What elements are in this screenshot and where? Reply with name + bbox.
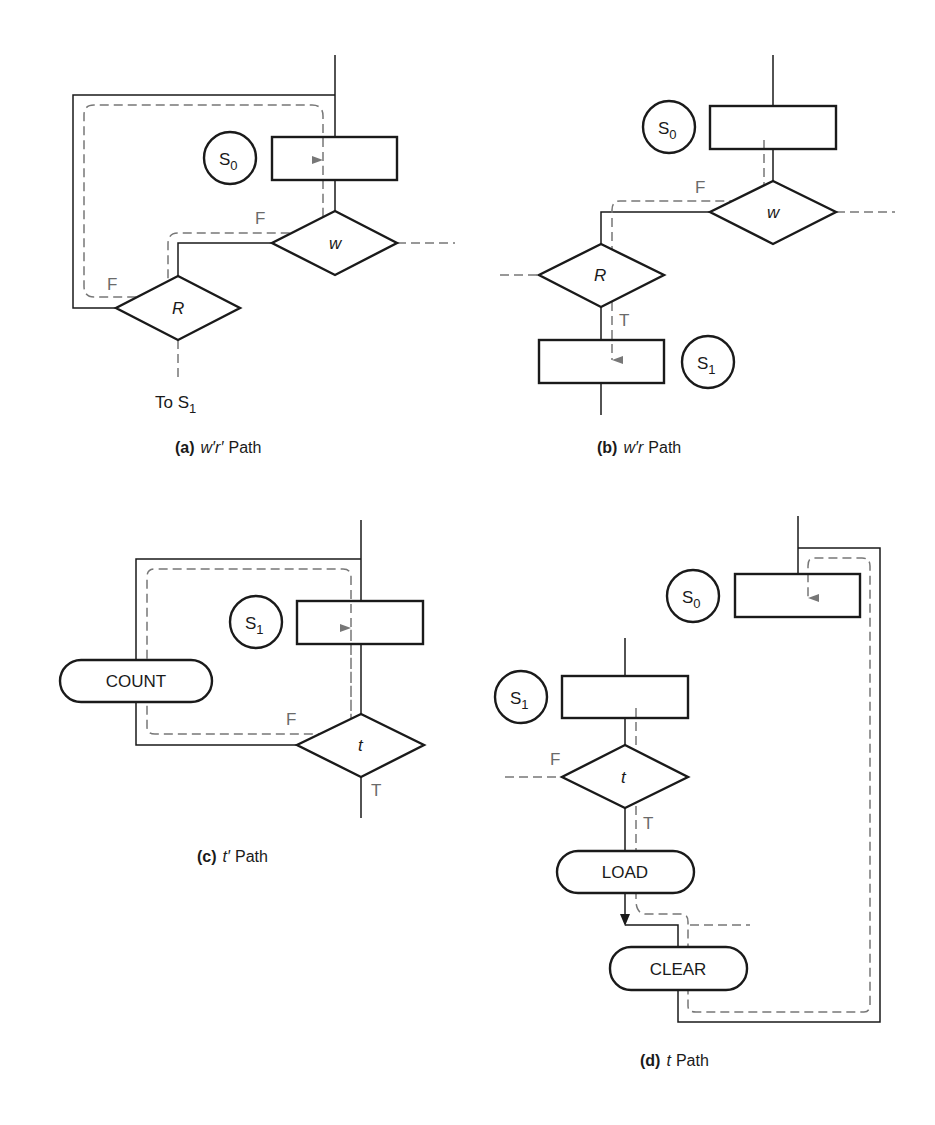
loop-back-line bbox=[136, 559, 361, 745]
action-clear-label: CLEAR bbox=[650, 960, 707, 979]
state-box-s0 bbox=[272, 137, 397, 180]
w-false-line bbox=[178, 243, 272, 276]
action-count-label: COUNT bbox=[106, 672, 166, 691]
caption-c: (c)t′Path bbox=[197, 848, 268, 865]
highlighted-path bbox=[612, 140, 764, 360]
exit-label-to-s1: To S1 bbox=[155, 393, 196, 416]
state-box-s0 bbox=[710, 106, 836, 149]
state-box-s1 bbox=[539, 340, 664, 383]
diagram-d-t-path: S0 S1 t F T LOAD CLEAR (d)tPath bbox=[495, 516, 880, 1069]
diagram-a-wr-prime-path: S0 w F R F To S1 (a)w′r′Path bbox=[73, 55, 455, 456]
branch-label-f: F bbox=[550, 750, 560, 769]
caption-a: (a)w′r′Path bbox=[175, 439, 261, 456]
join-to-clear-line bbox=[625, 925, 678, 946]
branch-label-t: T bbox=[371, 781, 381, 800]
highlighted-path bbox=[84, 105, 323, 297]
branch-label-f: F bbox=[695, 178, 705, 197]
action-load-label: LOAD bbox=[602, 863, 648, 882]
branch-label-t: T bbox=[619, 311, 629, 330]
branch-label-t: T bbox=[643, 814, 653, 833]
state-box-s0 bbox=[735, 574, 860, 617]
arrow-down-icon bbox=[620, 914, 630, 926]
branch-label-f: F bbox=[255, 209, 265, 228]
decision-w-label: w bbox=[329, 234, 343, 253]
w-false-line bbox=[601, 212, 710, 244]
diagram-b-w-prime-r-path: S0 w F R T S1 (b)w′rPath bbox=[500, 55, 895, 456]
branch-label-f: F bbox=[286, 710, 296, 729]
state-box-s1 bbox=[562, 676, 688, 718]
decision-r-label: R bbox=[172, 299, 184, 318]
decision-r-label: R bbox=[594, 266, 606, 285]
highlighted-path bbox=[147, 569, 351, 734]
branch-label-f: F bbox=[107, 275, 117, 294]
caption-b: (b)w′rPath bbox=[597, 439, 681, 456]
decision-w-label: w bbox=[767, 203, 781, 222]
state-box-s1 bbox=[297, 601, 423, 644]
diagram-c-t-prime-path: S1 COUNT t F T (c)t′Path bbox=[60, 520, 424, 865]
caption-d: (d)tPath bbox=[640, 1052, 709, 1069]
asm-chart-paths-figure: S0 w F R F To S1 (a)w′r′Path S0 w F R T … bbox=[0, 0, 935, 1125]
